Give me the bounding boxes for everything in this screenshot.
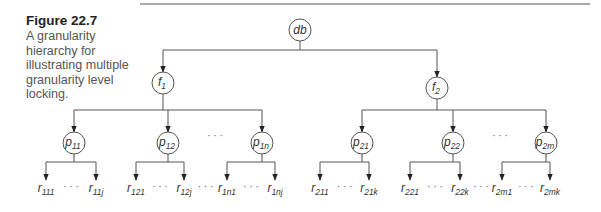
between-page-ellipsis: · · · (473, 181, 489, 192)
record-ellipsis: · · · (152, 181, 168, 192)
granularity-hierarchy-diagram: r111r11j· · ·r121r12j· · ·r1n1r1nj· · ·r… (0, 0, 601, 212)
tree-nodes (63, 19, 557, 154)
record-label-r12j: r12j (176, 181, 192, 197)
record-label-r1n1: r1n1 (218, 181, 236, 197)
record-label-r21k: r21k (360, 181, 378, 197)
record-label-r2m1: r2m1 (492, 181, 512, 197)
record-ellipsis: · · · (243, 181, 259, 192)
record-label-r2mk: r2mk (540, 181, 561, 197)
page-ellipsis: · · · (492, 130, 508, 141)
tree-edges (46, 41, 550, 180)
record-label-r1nj: r1nj (267, 181, 283, 197)
record-label-r121: r121 (127, 181, 145, 197)
record-ellipsis: · · · (427, 181, 443, 192)
record-label-r22k: r22k (451, 181, 469, 197)
record-ellipsis: · · · (63, 181, 79, 192)
page-ellipsis: · · · (207, 130, 223, 141)
record-ellipsis: · · · (518, 181, 534, 192)
between-page-ellipsis: · · · (198, 181, 214, 192)
record-label-r221: r221 (401, 181, 419, 197)
record-label-r211: r211 (311, 181, 328, 197)
record-label-r111: r111 (38, 181, 55, 197)
record-ellipsis: · · · (337, 181, 353, 192)
root-label-db: db (293, 23, 307, 37)
record-label-r11j: r11j (89, 181, 105, 197)
